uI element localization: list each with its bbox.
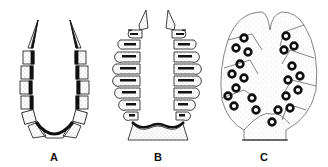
panel-a-drawing bbox=[20, 20, 89, 138]
panel-label-c: C bbox=[254, 151, 274, 163]
panel-b-drawing bbox=[113, 10, 202, 140]
panel-label-b: B bbox=[148, 151, 168, 163]
panel-label-a: A bbox=[44, 151, 64, 163]
diagram-canvas bbox=[0, 0, 328, 167]
panel-c-drawing bbox=[221, 12, 317, 140]
